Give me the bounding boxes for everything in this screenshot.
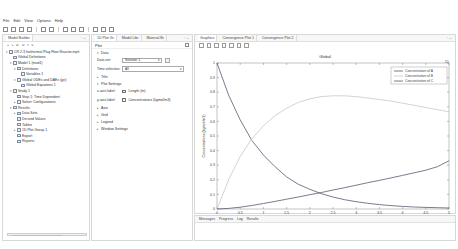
graphics-panel: Graphics Convergence Plot 1 Convergence … (194, 34, 456, 214)
section-data[interactable]: ▾Data (92, 49, 192, 56)
time-selection-select[interactable]: All▾ (122, 66, 184, 72)
node-icon (13, 61, 17, 65)
tab-material-browser[interactable]: Material Br (145, 35, 167, 41)
section-axis-label: Axis (101, 106, 108, 110)
main-toolbar (0, 25, 230, 33)
messages-tabs: Messages Progress Log Results (195, 216, 455, 223)
layout-icon[interactable] (79, 27, 84, 32)
tree-item-label: Definitions (22, 67, 38, 71)
section-title[interactable]: ▸Title (92, 73, 192, 80)
tab-model-library[interactable]: Model Libr (120, 35, 142, 41)
menu-view[interactable]: View (24, 18, 33, 23)
new-icon[interactable] (3, 27, 8, 32)
legend-entry: Concentration of C (405, 79, 434, 83)
window-icon[interactable] (71, 27, 76, 32)
tree-item-label: Solver Configurations (22, 100, 55, 104)
chevron-down-icon: ▾ (158, 58, 160, 62)
open-icon[interactable] (11, 27, 16, 32)
tree-item-label: Export (22, 134, 32, 138)
y-tick-label: 0.8 (210, 90, 215, 94)
data-set-goto-button[interactable] (165, 58, 170, 63)
tree-item[interactable]: Reports (3, 139, 89, 145)
section-window-settings-label: Window Settings (101, 127, 128, 131)
data-set-label: Data set: (97, 58, 122, 62)
menu-file[interactable]: File (3, 18, 9, 23)
line-chart[interactable]: 00.10.20.30.40.50.60.70.80.9100.511.522.… (195, 35, 457, 215)
series-line-1[interactable] (217, 96, 449, 209)
data-set-select[interactable]: Solution 1▾ (122, 58, 162, 64)
section-legend[interactable]: ▸Legend (92, 118, 192, 125)
menu-options[interactable]: Options (37, 18, 51, 23)
section-grid[interactable]: ▸Grid (92, 111, 192, 118)
redo-icon[interactable] (49, 27, 54, 32)
print-icon[interactable] (27, 27, 32, 32)
section-window-settings[interactable]: ▸Window Settings (92, 125, 192, 132)
expand-icon[interactable]: ⊞ (16, 43, 19, 47)
back-icon[interactable]: ◂ (7, 43, 9, 47)
minimize-maximize-icon[interactable]: ▫ ▭ (184, 36, 189, 40)
section-plot-settings[interactable]: ▾Plot Settings (92, 80, 192, 87)
node-icon (13, 56, 17, 60)
scrollbar-thumb[interactable] (12, 235, 62, 237)
plot-icon[interactable] (101, 27, 106, 32)
y-tick-label: 0.1 (210, 193, 215, 197)
tab-progress[interactable]: Progress (219, 217, 233, 221)
plot-area (217, 63, 449, 209)
section-plot-settings-label: Plot Settings (101, 82, 121, 86)
tree-item[interactable]: ▾CR 2.3 Isothermal Plug Flow Reactor.mph (3, 49, 89, 55)
tab-messages[interactable]: Messages (199, 217, 215, 221)
model-library-icon[interactable] (63, 27, 68, 32)
tree-item-label: Study 1 (18, 89, 30, 93)
show-icon[interactable]: ≡ (27, 43, 29, 47)
x-axis-label-value[interactable]: Length (m) (129, 89, 146, 93)
model-tree: ▾CR 2.3 Isothermal Plug Flow Reactor.mph… (3, 48, 89, 144)
model-builder-tab[interactable]: Model Builder (6, 35, 33, 41)
plot-title-label: Plot (95, 43, 102, 48)
model-builder-header: Model Builder ▫ ▭ (3, 35, 89, 42)
tree-item-label: Data Sets (22, 111, 37, 115)
legend-entry: Concentration of B (405, 74, 434, 78)
legend-entry: Concentration of A (405, 69, 434, 73)
settings-tabs: 1D Plot Gr Model Libr Material Br ▫ ▭ (92, 35, 192, 42)
series-line-0[interactable] (217, 63, 449, 208)
tab-results[interactable]: Results (247, 217, 259, 221)
node-icon (17, 100, 21, 104)
menu-help[interactable]: Help (55, 18, 63, 23)
node-icon (17, 134, 21, 138)
y-tick-label: 0.2 (210, 178, 215, 182)
x-axis-label-label: x-axis label: (97, 89, 122, 93)
minimize-maximize-icon[interactable]: ▫ ▭ (81, 36, 86, 40)
settings-title: Plot (92, 42, 192, 49)
compute-icon[interactable] (93, 27, 98, 32)
tab-log[interactable]: Log (237, 217, 243, 221)
node-icon (13, 106, 17, 110)
data-set-row: Data set: Solution 1▾ (92, 56, 192, 65)
x-axis-label-checkbox[interactable]: ✓ (122, 90, 126, 94)
sort-icon[interactable]: ⇅ (31, 43, 34, 47)
horizontal-scrollbar[interactable] (7, 233, 87, 236)
menu-edit[interactable]: Edit (13, 18, 20, 23)
tab-1d-plot-group[interactable]: 1D Plot Gr (95, 35, 117, 41)
undo-icon[interactable] (41, 27, 46, 32)
y-axis-label-checkbox[interactable]: ✓ (122, 98, 126, 102)
collapse-icon[interactable]: ⊟ (22, 43, 25, 47)
y-axis-label-label: y-axis label: (97, 98, 122, 102)
refresh-icon[interactable] (109, 27, 114, 32)
y-tick-label: 0.7 (210, 105, 215, 109)
series-line-2[interactable] (217, 161, 449, 209)
y-axis-label-value[interactable]: Concentrations (kgmol/m3) (129, 98, 171, 102)
toolbar-separator (88, 27, 89, 32)
y-tick-label: 0.6 (210, 120, 215, 124)
section-axis[interactable]: ▸Axis (92, 104, 192, 111)
forward-icon[interactable]: ▸ (12, 43, 14, 47)
tree-item-label: Results (18, 106, 30, 110)
tree-item-label: Global Definitions (18, 55, 45, 59)
tree-item-label: Variables 1 (26, 72, 43, 76)
messages-panel: Messages Progress Log Results (194, 215, 456, 241)
y-tick-label: 0.4 (210, 149, 215, 153)
node-icon (9, 50, 13, 54)
y-axis-label: Concentrations (kgmol/m3) (202, 114, 206, 157)
settings-panel: 1D Plot Gr Model Libr Material Br ▫ ▭ Pl… (91, 34, 193, 241)
plot-icon[interactable] (185, 43, 189, 47)
save-icon[interactable] (19, 27, 24, 32)
